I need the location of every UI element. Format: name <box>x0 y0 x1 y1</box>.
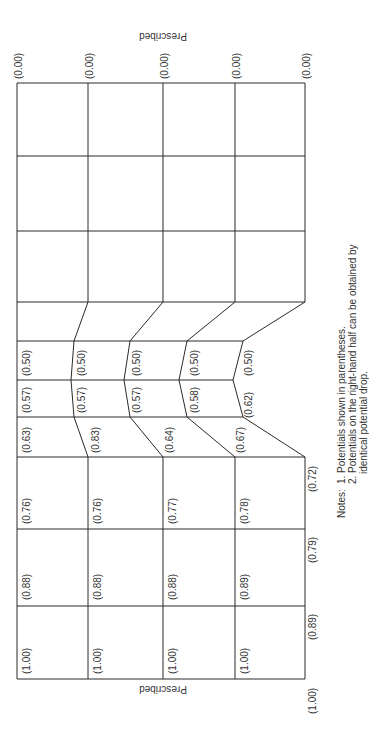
value-label: (0.50) <box>76 350 87 376</box>
prescribed-label-top: Prescribed <box>139 31 187 42</box>
potential-row-1: (1.00) (0.88) (0.76) (0.63) (0.57) (0.50… <box>21 350 32 674</box>
value-label: (0.76) <box>21 498 32 524</box>
value-label: (0.62) <box>243 392 254 418</box>
note-item-2: 2. Potentials on the right-hand half can… <box>347 244 358 484</box>
value-label: (1.00) <box>307 688 318 714</box>
flow-net-diagram: Prescribed Prescribed (0.00) (0.00) (0.0… <box>0 0 369 733</box>
value-label: (0.63) <box>21 427 32 453</box>
value-label: (0.76) <box>92 498 103 524</box>
value-label: (1.00) <box>21 648 32 674</box>
note-item-1: 1. Potentials shown in parentheses. <box>336 326 347 484</box>
value-label: (0.50) <box>243 350 254 376</box>
value-label: (0.57) <box>76 387 87 413</box>
potential-row-2: (1.00) (0.88) (0.76) (0.83) (0.57) (0.50… <box>76 350 103 674</box>
value-label: (0.77) <box>167 498 178 524</box>
value-label: (0.00) <box>159 53 170 79</box>
value-label: (0.00) <box>84 53 95 79</box>
value-label: (0.64) <box>164 427 175 453</box>
value-label: (0.89) <box>239 574 250 600</box>
value-label: (0.88) <box>167 574 178 600</box>
value-label: (0.67) <box>235 427 246 453</box>
top-edge-values: (0.00) (0.00) (0.00) (0.00) (0.00) <box>13 53 312 79</box>
value-label: (0.72) <box>307 466 318 492</box>
value-label: (0.57) <box>131 387 142 413</box>
potential-row-3: (1.00) (0.88) (0.77) (0.64) (0.57) (0.50… <box>131 350 178 674</box>
value-label: (0.88) <box>21 574 32 600</box>
value-label: (0.50) <box>189 350 200 376</box>
value-label: (0.58) <box>189 387 200 413</box>
note-item-3: identical potential drop. <box>358 371 369 474</box>
value-label: (0.88) <box>92 574 103 600</box>
value-label: (1.00) <box>239 648 250 674</box>
value-label: (0.00) <box>301 53 312 79</box>
value-label: (0.78) <box>239 498 250 524</box>
value-label: (0.89) <box>307 614 318 640</box>
value-label: (0.50) <box>21 350 32 376</box>
notes: Notes: 1. Potentials shown in parenthese… <box>336 244 369 518</box>
prescribed-label-bottom: Prescribed <box>139 684 187 695</box>
grid-lines <box>17 83 305 679</box>
value-label: (1.00) <box>92 648 103 674</box>
right-edge-values: (1.00) (0.89) (0.79) (0.72) <box>307 466 318 714</box>
notes-heading: Notes: <box>336 489 347 518</box>
potential-row-5: (0.62) (0.50) <box>243 350 254 418</box>
potential-row-4: (1.00) (0.89) (0.78) (0.67) (0.58) (0.50… <box>189 350 250 674</box>
value-label: (0.57) <box>21 387 32 413</box>
value-label: (0.83) <box>90 427 101 453</box>
value-label: (1.00) <box>167 648 178 674</box>
value-label: (0.50) <box>131 350 142 376</box>
value-label: (0.00) <box>231 53 242 79</box>
value-label: (0.00) <box>13 53 24 79</box>
value-label: (0.79) <box>307 537 318 563</box>
